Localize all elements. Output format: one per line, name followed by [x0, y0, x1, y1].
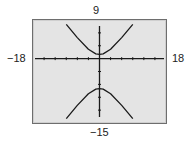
ymax-label: 9	[93, 5, 99, 16]
calculator-screen	[32, 19, 167, 124]
ymin-label: −15	[90, 127, 109, 138]
graph-plot	[33, 20, 166, 123]
xmax-label: 18	[172, 53, 184, 64]
xmin-label: −18	[7, 53, 26, 64]
